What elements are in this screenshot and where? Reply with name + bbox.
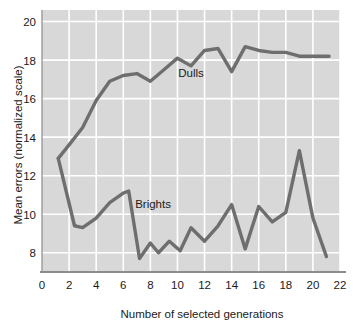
y-tick-label: 12 <box>23 170 36 182</box>
x-axis-tick-labels: 0246810121416182022 <box>39 279 347 291</box>
x-tick-label: 4 <box>93 279 100 291</box>
x-tick-label: 0 <box>39 279 45 291</box>
y-axis-tick-labels: 8101214161820 <box>23 16 36 259</box>
series-label-dulls: Dulls <box>178 67 204 79</box>
y-tick-label: 16 <box>23 93 36 105</box>
x-tick-label: 18 <box>279 279 292 291</box>
y-tick-label: 18 <box>23 55 36 67</box>
plot-area-background <box>42 10 340 272</box>
x-tick-label: 20 <box>307 279 320 291</box>
x-tick-label: 8 <box>147 279 153 291</box>
line-chart: 0246810121416182022 8101214161820 DullsB… <box>0 0 358 326</box>
y-tick-label: 20 <box>23 16 36 28</box>
x-tick-label: 6 <box>120 279 126 291</box>
series-label-brights: Brights <box>135 198 171 210</box>
x-tick-label: 2 <box>66 279 72 291</box>
chart-figure: 0246810121416182022 8101214161820 DullsB… <box>0 0 358 326</box>
x-tick-label: 12 <box>198 279 211 291</box>
y-tick-label: 10 <box>23 209 36 221</box>
x-axis-title: Number of selected generations <box>120 308 283 320</box>
x-tick-label: 10 <box>171 279 184 291</box>
y-tick-label: 8 <box>30 247 36 259</box>
y-tick-label: 14 <box>23 132 36 144</box>
y-axis-title: Mean errors (normalized scale) <box>12 65 24 224</box>
x-tick-label: 16 <box>252 279 265 291</box>
x-tick-label: 22 <box>334 279 347 291</box>
x-tick-label: 14 <box>225 279 238 291</box>
